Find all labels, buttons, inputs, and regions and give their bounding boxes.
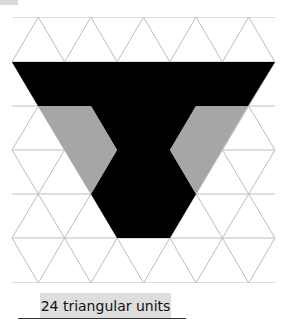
caption-text: 24 triangular units	[41, 298, 171, 314]
caption-underline	[18, 318, 186, 319]
triangle-grid-diagram	[0, 0, 287, 290]
caption-box: 24 triangular units	[40, 293, 171, 318]
